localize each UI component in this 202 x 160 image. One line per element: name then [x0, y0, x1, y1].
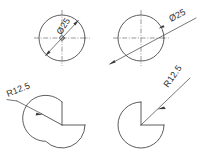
- arrowhead-outer-left-top-right: [109, 60, 116, 65]
- arc-outline-bottom-left: [23, 95, 85, 148]
- figure-top-left-circle: Ø25: [34, 10, 90, 66]
- dimension-label-radius-bottom-left: R12.5: [5, 80, 31, 98]
- dimension-label-radius-bottom-right: R12.5: [161, 63, 183, 89]
- figure-top-right-circle: Ø25: [109, 7, 196, 66]
- cad-drawing-svg: Ø25 Ø25: [0, 0, 202, 160]
- chord-edge-bottom-left: [41, 114, 62, 125]
- cad-drawing-canvas: Ø25 Ø25: [0, 0, 202, 160]
- figure-bottom-left-notched-circle: R12.5: [5, 80, 85, 148]
- leader-line-bottom-left: [17, 101, 41, 114]
- dimension-label-diameter-top-right: Ø25: [167, 7, 187, 24]
- dimension-label-diameter-top-left: Ø25: [54, 16, 72, 36]
- figure-bottom-right-pacman: R12.5: [118, 63, 190, 148]
- leader-shoulder-bottom-left: [7, 100, 17, 101]
